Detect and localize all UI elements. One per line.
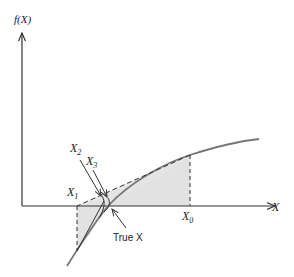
x-axis-label: X [271,200,280,214]
x3-label: X3 [85,154,97,170]
true-x-label: True X [113,232,143,243]
x3-pointer-arrow [93,170,107,197]
x1-label: X1 [66,185,78,201]
x2-label: X2 [69,141,81,157]
x0-label: X0 [181,209,193,225]
true-x-pointer-arrow [112,209,126,228]
newton-method-diagram: f(X) X X0 X1 X2 X3 True X [0,0,294,277]
y-axis-label: f(X) [14,13,31,26]
